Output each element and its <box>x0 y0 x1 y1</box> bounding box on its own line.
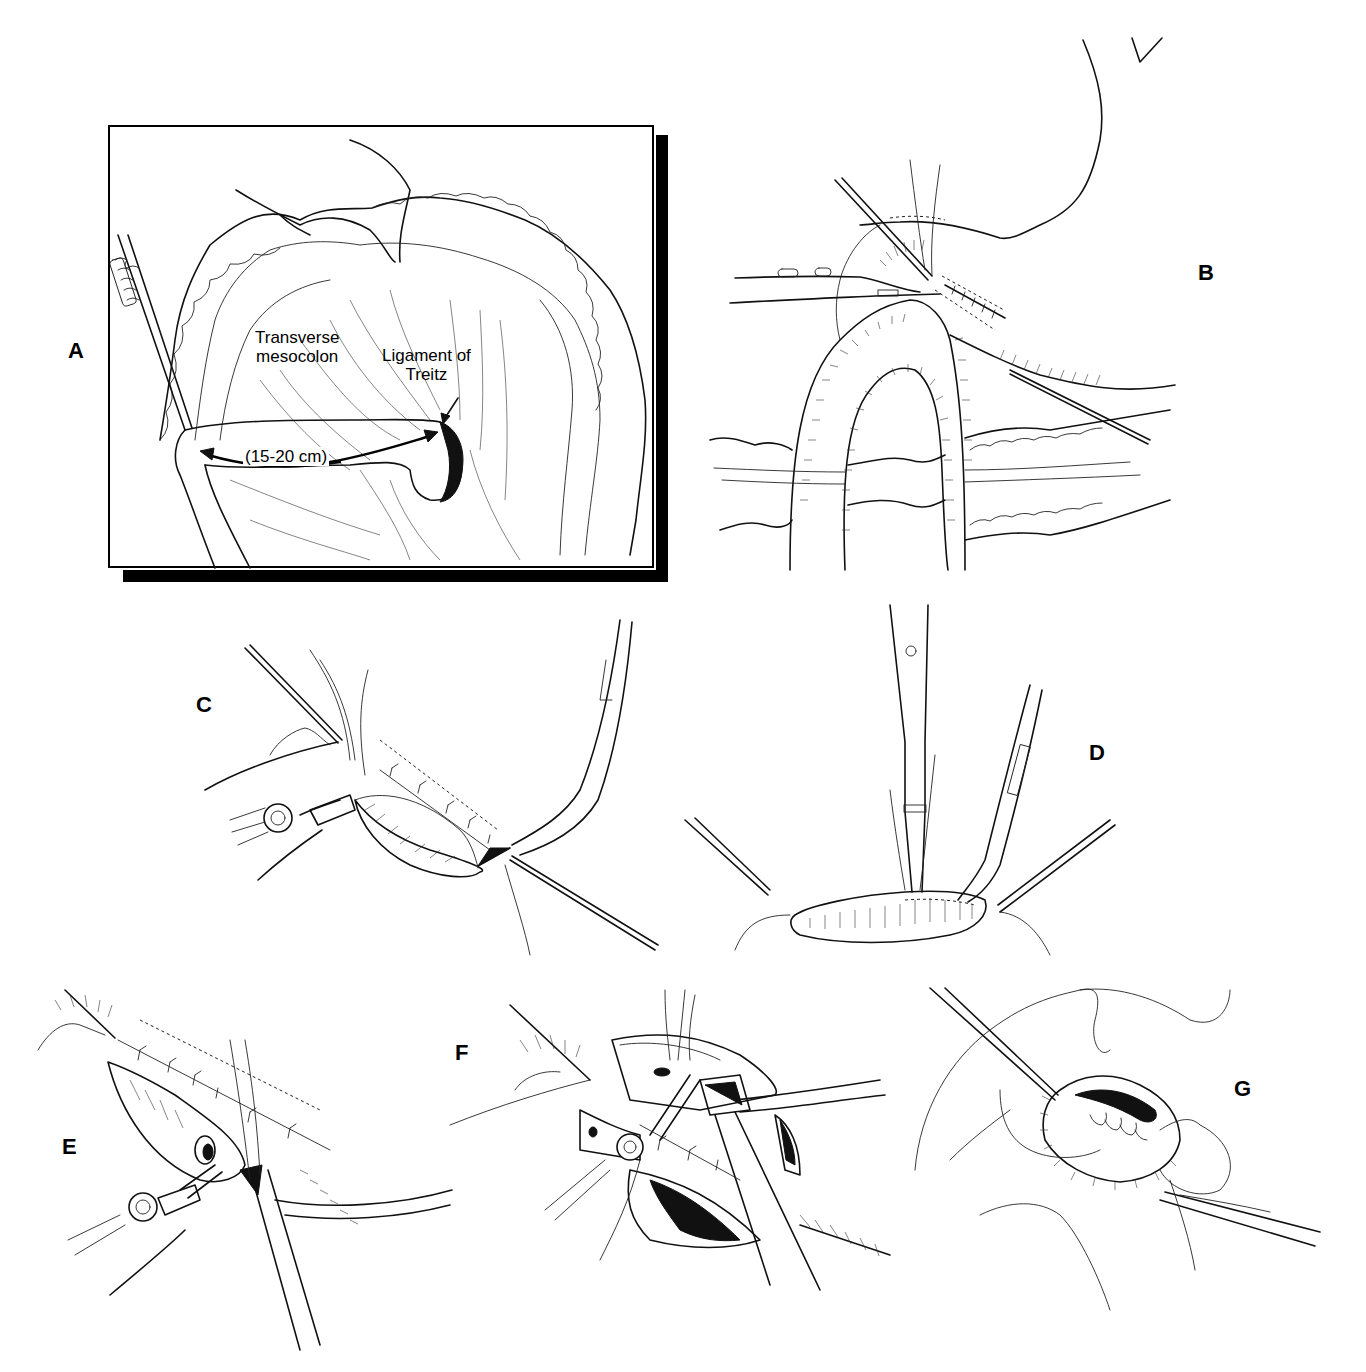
panel-label-g: G <box>1234 1078 1251 1100</box>
panel-b-drawing <box>710 38 1175 570</box>
panel-f-drawing <box>450 990 890 1290</box>
panel-c-drawing <box>205 620 658 955</box>
panel-g-drawing <box>915 988 1320 1310</box>
panel-label-d: D <box>1089 742 1105 764</box>
label-ligament-line2: Treitz <box>382 365 471 384</box>
panel-label-b: B <box>1198 262 1214 284</box>
label-ligament-line1: Ligament of <box>382 346 471 365</box>
check-mark-icon <box>1132 38 1162 62</box>
label-transverse-mesocolon-line1: Transverse <box>255 328 339 347</box>
label-transverse-mesocolon: Transverse mesocolon <box>255 328 339 366</box>
label-ligament-of-treitz: Ligament of Treitz <box>382 346 471 384</box>
illustration-canvas <box>0 0 1366 1372</box>
panel-label-c: C <box>196 694 212 716</box>
label-measurement: (15-20 cm) <box>243 447 329 466</box>
panel-a-drawing <box>109 140 646 568</box>
panel-label-a: A <box>68 340 84 362</box>
panel-label-e: E <box>62 1136 77 1158</box>
figure: Transverse mesocolon Ligament of Treitz … <box>0 0 1366 1372</box>
label-transverse-mesocolon-line2: mesocolon <box>255 347 339 366</box>
panel-label-f: F <box>455 1042 468 1064</box>
panel-d-drawing <box>685 605 1115 955</box>
panel-e-drawing <box>38 990 452 1350</box>
